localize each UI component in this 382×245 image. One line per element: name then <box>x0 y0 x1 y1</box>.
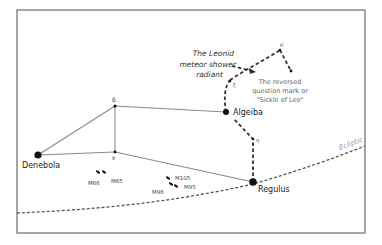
star-algeiba <box>223 109 229 115</box>
label-zeta: ζ <box>233 82 236 89</box>
radiant-text-2: meteor shower <box>179 60 237 69</box>
label-m65: M65 <box>111 178 123 184</box>
label-regulus: Regulus <box>258 185 290 194</box>
leo-constellation-diagram: Ecliptic Denebola δ θ Algeiba Regulus ζ … <box>0 0 382 245</box>
label-algeiba: Algeiba <box>233 108 263 117</box>
star-mu <box>279 49 281 51</box>
radiant-text-1: The Leonid <box>193 49 235 58</box>
label-denebola: Denebola <box>22 161 60 170</box>
radiant-text-3: radiant <box>196 70 224 79</box>
label-m96: M96 <box>152 189 164 195</box>
star-theta <box>114 151 117 154</box>
label-eta: η <box>256 137 259 144</box>
label-theta: θ <box>112 155 115 161</box>
label-delta: δ <box>112 96 116 103</box>
star-regulus <box>249 178 257 186</box>
star-epsilon <box>290 70 293 73</box>
label-m95: M95 <box>184 184 196 190</box>
diagram-frame <box>17 10 365 233</box>
label-m66: M66 <box>88 180 100 186</box>
star-denebola <box>34 151 41 158</box>
sickle-text-1: The reversed <box>258 78 302 86</box>
sickle-text-2: question mark or <box>252 87 308 95</box>
sickle-annotation: The reversed question mark or "Sickle of… <box>252 78 308 104</box>
star-delta <box>113 104 116 107</box>
sickle-text-3: "Sickle of Leo" <box>257 96 304 104</box>
star-eta <box>252 138 255 141</box>
star-zeta <box>229 80 232 83</box>
label-m105: M105 <box>175 175 191 181</box>
